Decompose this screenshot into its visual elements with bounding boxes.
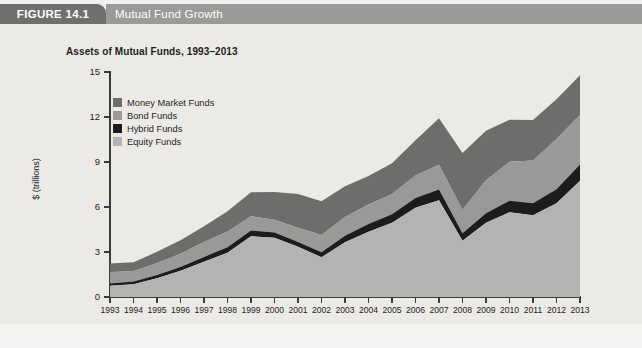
x-axis-tick [462,298,463,303]
x-axis-tick [532,298,533,303]
chart-title: Assets of Mutual Funds, 1993–2013 [66,46,238,57]
legend-swatch-icon [113,98,122,107]
x-axis-tick [274,298,275,303]
y-axis-tick [104,161,109,162]
x-axis-tick [156,298,157,303]
y-axis-tick [104,206,109,207]
bottom-strip [0,324,642,348]
figure-title-label: Mutual Fund Growth [106,8,223,20]
legend-item-label: Bond Funds [127,111,177,121]
legend-item-label: Hybrid Funds [127,124,182,134]
y-axis-tick-label: 3 [74,246,100,257]
x-axis-tick [133,298,134,303]
x-axis-tick [203,298,204,303]
x-axis-tick [109,298,110,303]
x-axis-tick [368,298,369,303]
y-axis-tick [104,251,109,252]
legend-swatch-icon [113,137,122,146]
x-axis-tick [415,298,416,303]
x-axis-tick [250,298,251,303]
y-axis-tick-label: 0 [74,291,100,302]
legend-item: Equity Funds [113,136,214,148]
x-axis-tick [321,298,322,303]
figure-header: FIGURE 14.1 Mutual Fund Growth [0,4,642,24]
y-axis-tick-label: 9 [74,156,100,167]
y-axis-tick-label: 15 [74,66,100,77]
legend-item-label: Equity Funds [127,137,181,147]
y-axis-tick [104,116,109,117]
legend-item: Hybrid Funds [113,123,214,135]
x-axis-tick [297,298,298,303]
x-axis-tick [509,298,510,303]
legend-swatch-icon [113,124,122,133]
x-axis-tick [180,298,181,303]
y-axis-tick-label: 6 [74,201,100,212]
chart-card: Assets of Mutual Funds, 1993–2013 $ (tri… [0,24,642,324]
x-axis-tick [391,298,392,303]
legend-item-label: Money Market Funds [127,98,214,108]
figure-number-label: FIGURE 14.1 [17,8,89,20]
x-axis-tick-label: 2013 [563,305,597,315]
x-axis-tick [556,298,557,303]
x-axis-tick [485,298,486,303]
x-axis-tick [344,298,345,303]
figure-number-tab: FIGURE 14.1 [0,4,106,24]
legend-item: Bond Funds [113,110,214,122]
chart-legend: Money Market FundsBond FundsHybrid Funds… [113,97,214,149]
x-axis-tick [438,298,439,303]
legend-swatch-icon [113,111,122,120]
y-axis-tick [104,296,109,297]
y-axis-tick [104,71,109,72]
x-axis-tick [579,298,580,303]
figure-title-bar: Mutual Fund Growth [106,4,642,24]
legend-item: Money Market Funds [113,97,214,109]
y-axis-title: $ (trillions) [31,134,41,224]
x-axis-tick [227,298,228,303]
y-axis-tick-label: 12 [74,111,100,122]
